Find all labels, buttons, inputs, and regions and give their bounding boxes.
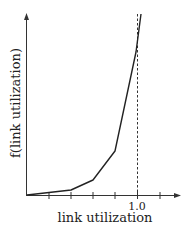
x-axis-arrow-icon	[174, 193, 181, 198]
x-axis-label: link utilization	[58, 210, 154, 225]
y-axis-label: f(link utilization)	[8, 48, 23, 158]
chart: 1.0 link utilization f(link utilization)	[0, 0, 191, 231]
cost-curve	[27, 14, 141, 195]
y-axis-arrow-icon	[24, 13, 29, 20]
